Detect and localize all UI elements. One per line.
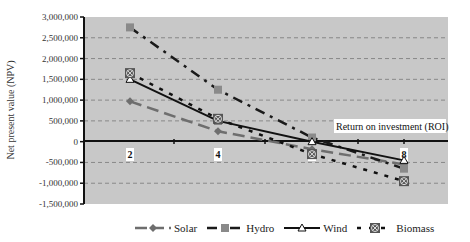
plot-area (84, 17, 448, 204)
y-tick-label: -1,000,000 (39, 178, 78, 188)
biomass-marker (307, 149, 317, 159)
legend-label-hydro: Hydro (246, 222, 274, 234)
y-tick-label: 2,500,000 (42, 33, 79, 43)
legend-item-hydro: Hydro (207, 222, 274, 234)
y-tick-label: 1,500,000 (42, 74, 79, 84)
hydro-legend-icon (207, 223, 243, 233)
legend-label-biomass: Biomass (396, 222, 434, 234)
npv-line-chart: 3,000,0002,500,0002,000,0001,500,0001,00… (0, 0, 470, 220)
y-tick-label: -1,500,000 (39, 199, 78, 209)
y-axis-title: Net present value (NPV) (5, 60, 17, 159)
biomass-marker (399, 176, 409, 186)
y-tick-label: 1,000,000 (42, 95, 79, 105)
y-tick-label: 0 (74, 137, 79, 147)
wind-legend-icon (284, 223, 320, 233)
legend-label-solar: Solar (174, 222, 197, 234)
legend-item-wind: Wind (284, 222, 347, 234)
x-tick-label: 2 (128, 149, 133, 160)
legend-label-wind: Wind (323, 222, 347, 234)
y-axis-ticks: 3,000,0002,500,0002,000,0001,500,0001,00… (39, 12, 84, 209)
y-tick-label: 2,000,000 (42, 54, 79, 64)
hydro-marker (400, 165, 408, 173)
biomass-marker (125, 68, 135, 78)
biomass-legend-icon (357, 223, 393, 233)
y-tick-label: -500,000 (46, 157, 79, 167)
solar-legend-icon (135, 223, 171, 233)
biomass-marker (213, 114, 223, 124)
legend: Solar Hydro Wind Biomass (135, 220, 444, 236)
hydro-marker (214, 86, 222, 94)
roi-annotation: Return on investment (ROI) (336, 121, 448, 133)
y-tick-label: 3,000,000 (42, 12, 79, 22)
x-tick-label: 4 (216, 149, 221, 160)
hydro-marker (126, 23, 134, 31)
legend-item-solar: Solar (135, 222, 197, 234)
legend-item-biomass: Biomass (357, 222, 434, 234)
y-tick-label: 500,000 (49, 116, 79, 126)
